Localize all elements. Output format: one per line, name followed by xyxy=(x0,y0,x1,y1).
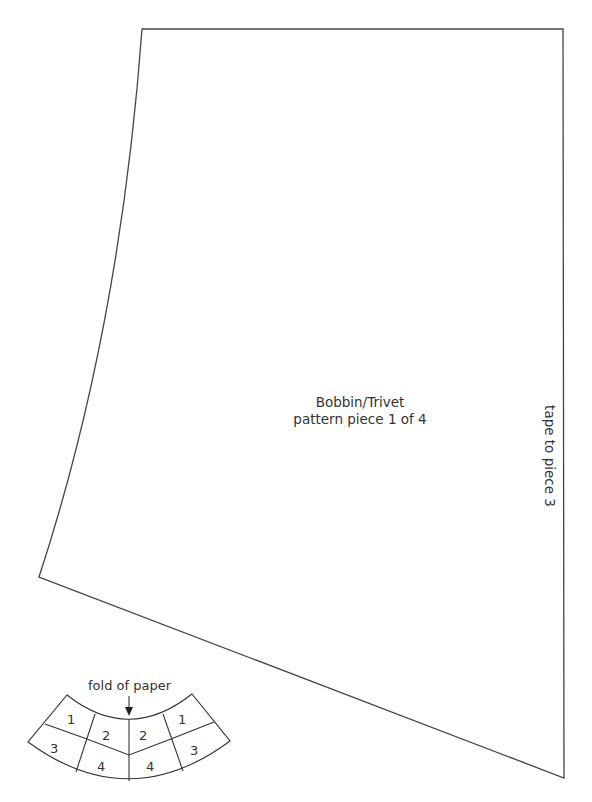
fold-arrow-head xyxy=(125,707,133,716)
divider xyxy=(76,714,95,772)
cell-number: 3 xyxy=(190,743,198,758)
cell-number: 2 xyxy=(139,728,147,743)
pattern-subtitle: pattern piece 1 of 4 xyxy=(260,411,460,428)
tape-instruction: tape to piece 3 xyxy=(542,386,558,526)
cell-number: 1 xyxy=(178,712,186,727)
pattern-title: Bobbin/Trivet xyxy=(260,394,460,411)
cell-number: 1 xyxy=(67,712,75,727)
fold-label: fold of paper xyxy=(88,678,171,693)
cell-number: 2 xyxy=(102,728,110,743)
pattern-title-block: Bobbin/Trivet pattern piece 1 of 4 xyxy=(260,394,460,428)
cell-number: 3 xyxy=(50,741,58,756)
cell-number: 4 xyxy=(97,759,105,774)
fold-diagram-numbers: 1 2 2 1 3 4 4 3 xyxy=(50,712,198,774)
cell-number: 4 xyxy=(146,759,154,774)
